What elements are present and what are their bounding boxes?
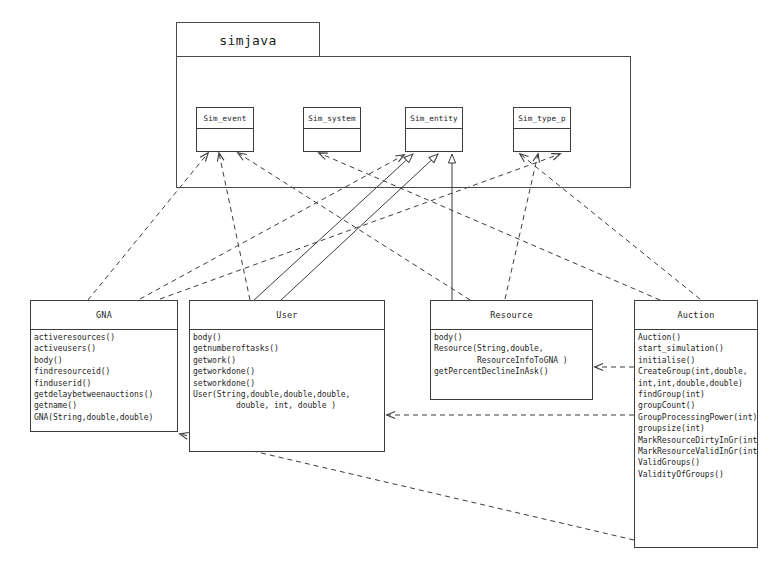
class-box-sim_entity[interactable]: Sim_entity [405,107,463,152]
class-box-resource[interactable]: Resourcebody()Resource(String,double, Re… [430,300,593,400]
class-member: getworkdone() [190,366,384,377]
class-member: getPercentDeclineInAsk() [431,366,592,377]
class-member: Auction() [635,332,757,343]
class-name-sim_system: Sim_system [304,108,360,129]
class-member: start_simulation() [635,343,757,354]
class-box-sim_system[interactable]: Sim_system [303,107,361,152]
class-member: getnumberoftasks() [190,343,384,354]
class-member: activeresources() [31,332,177,343]
class-member: ResourceInfoToGNA ) [431,355,592,366]
class-member: MarkResourceValidInGr(int) [635,446,757,457]
class-member: CreateGroup(int,double, [635,366,757,377]
class-box-gna[interactable]: GNAactiveresources()activeusers()body()f… [30,300,178,432]
class-name-sim_entity: Sim_entity [406,108,462,129]
class-member: groupsize(int) [635,423,757,434]
class-member: getname() [31,400,177,411]
class-member: double, int, double ) [190,400,384,411]
class-member: Resource(String,double, [431,343,592,354]
class-members-user: body()getnumberoftasks()getwork()getwork… [190,330,384,451]
class-member: ValidityOfGroups() [635,469,757,480]
class-members-auction: Auction()start_simulation()initialise()C… [635,330,757,547]
class-name-auction: Auction [635,301,757,330]
class-members-sim_event [197,129,253,151]
class-name-sim_type_p: Sim_type_p [514,108,570,129]
class-box-user[interactable]: Userbody()getnumberoftasks()getwork()get… [189,300,385,452]
class-member: getdelaybetweenauctions() [31,389,177,400]
class-member: ValidGroups() [635,457,757,468]
class-member: getwork() [190,355,384,366]
package-name-label: simjava [219,33,277,48]
class-member: GNA(String,double,double) [31,412,177,423]
class-member: body() [431,332,592,343]
class-name-resource: Resource [431,301,592,330]
class-member: MarkResourceDirtyInGr(int) [635,435,757,446]
class-members-gna: activeresources()activeusers()body()find… [31,330,177,431]
class-members-sim_system [304,129,360,151]
class-box-auction[interactable]: AuctionAuction()start_simulation()initia… [634,300,758,548]
package-tab: simjava [176,22,320,57]
class-member: setworkdone() [190,378,384,389]
class-members-sim_type_p [514,129,570,151]
class-box-sim_event[interactable]: Sim_event [196,107,254,152]
class-member: GroupProcessingPower(int) [635,412,757,423]
class-member: int,int,double,double) [635,378,757,389]
class-member: findGroup(int) [635,389,757,400]
class-member: initialise() [635,355,757,366]
class-members-sim_entity [406,129,462,151]
class-name-user: User [190,301,384,330]
class-box-sim_type_p[interactable]: Sim_type_p [513,107,571,152]
class-member: finduserid() [31,378,177,389]
class-name-sim_event: Sim_event [197,108,253,129]
class-member: User(String,double,double,double, [190,389,384,400]
uml-diagram-canvas: simjava Sim_eventSim_systemSim_entitySim… [0,0,779,580]
class-member: body() [31,355,177,366]
class-member: activeusers() [31,343,177,354]
class-member: findresourceid() [31,366,177,377]
class-members-resource: body()Resource(String,double, ResourceIn… [431,330,592,399]
class-member: body() [190,332,384,343]
class-member: groupCount() [635,400,757,411]
class-name-gna: GNA [31,301,177,330]
